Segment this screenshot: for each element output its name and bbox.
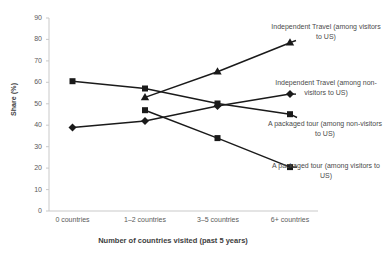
y-axis-title: Share (%) (10, 55, 17, 145)
x-tick-6-plus-countries: 6+ countries (256, 216, 324, 223)
y-tick-80: 80 (18, 35, 42, 42)
y-tick-20: 20 (18, 164, 42, 171)
y-tick-10: 10 (18, 186, 42, 193)
y-tick-50: 50 (18, 100, 42, 107)
y-tick-0: 0 (18, 207, 42, 214)
x-tick-3-5-countries: 3–5 countries (181, 216, 255, 223)
y-tick-30: 30 (18, 143, 42, 150)
y-tick-40: 40 (18, 121, 42, 128)
series-label-independent-travel-visitors: Independent Travel (among visitors to US… (268, 22, 384, 41)
y-tick-70: 70 (18, 57, 42, 64)
x-tick-0-countries: 0 countries (38, 216, 108, 223)
x-axis-title: Number of countries visited (past 5 year… (28, 236, 318, 245)
label-leader-lines (290, 41, 297, 168)
series-label-independent-travel-non-visitors: Independent Travel (among non-visitors t… (268, 78, 384, 97)
series-label-packaged-tour-non-visitors: A packaged tour (among non-visitors to U… (266, 119, 384, 138)
y-tick-60: 60 (18, 78, 42, 85)
x-tick-1-2-countries: 1–2 countries (108, 216, 182, 223)
series-label-packaged-tour-visitors: A packaged tour (among visitors to US) (268, 161, 384, 180)
y-tick-90: 90 (18, 14, 42, 21)
line-chart: Share (%) 90 80 70 60 50 40 30 20 10 0 0… (0, 0, 385, 255)
